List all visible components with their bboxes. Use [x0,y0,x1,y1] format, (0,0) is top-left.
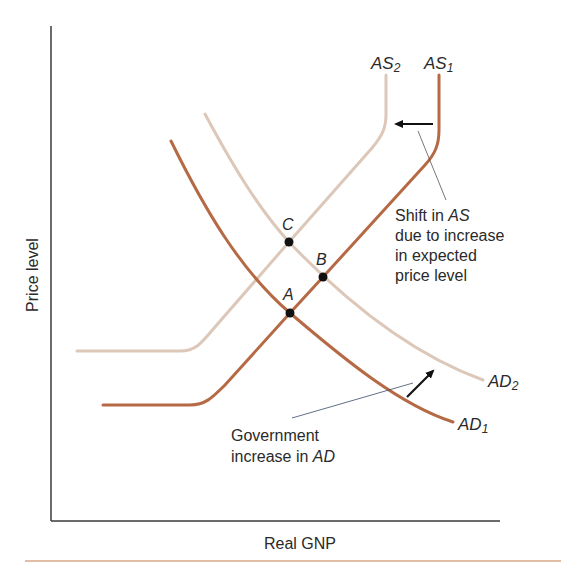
ad-as-diagram: A B C AS2 AS1 AD2 AD1 Shift in AS due to… [0,0,561,572]
point-b-label: B [316,251,327,268]
as1-curve [103,75,439,405]
y-axis-label: Price level [24,238,41,312]
ad-annotation-leader [292,383,413,418]
point-c-label: C [282,216,294,233]
as-annotation-leader [418,131,446,200]
point-a [286,309,295,318]
ad2-label: AD2 [487,372,519,393]
point-c [285,238,294,247]
as1-label: AS1 [423,54,453,75]
ad1-label: AD1 [457,415,488,436]
ad-shift-annotation: Government increase in AD [231,427,336,465]
as2-label: AS2 [370,54,401,75]
as2-curve [77,75,386,351]
as-shift-annotation: Shift in AS due to increase in expected … [395,207,509,284]
point-a-label: A [282,286,294,303]
x-axis-label: Real GNP [264,535,336,552]
point-b [319,273,328,282]
